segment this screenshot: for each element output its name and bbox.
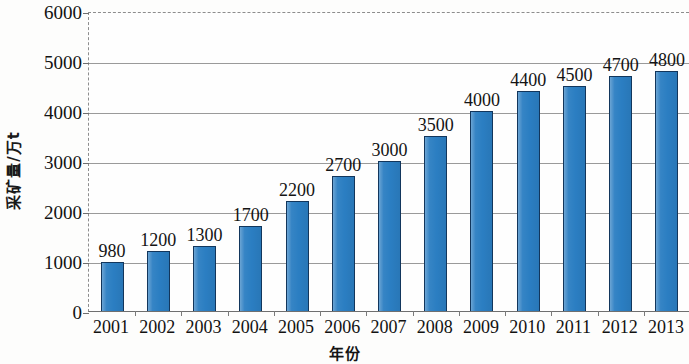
bar-value-label: 1200 [135, 231, 181, 249]
y-axis-tick-label: 5000 [24, 53, 82, 72]
y-axis-tick-labels: 0100020003000400050006000 [22, 0, 82, 364]
bar [378, 161, 401, 311]
bar-value-label: 3500 [413, 116, 459, 134]
bar-value-label: 2200 [274, 181, 320, 199]
x-axis-tick-label: 2006 [319, 318, 365, 336]
bar [563, 86, 586, 311]
x-axis-title: 年份 [0, 342, 689, 363]
bar-fill [425, 137, 446, 311]
y-axis-tick-mark [83, 113, 89, 114]
bar-value-label: 4000 [459, 91, 505, 109]
gridline [89, 113, 689, 114]
bar-fill [518, 92, 539, 311]
y-axis-tick-mark [83, 63, 89, 64]
x-axis-tick-mark [644, 311, 645, 316]
bar-value-label: 4500 [551, 66, 597, 84]
x-axis-tick-mark [598, 311, 599, 316]
y-axis-title: 采矿量/万t [0, 60, 24, 280]
y-axis-tick-mark [83, 163, 89, 164]
x-axis-tick-label: 2008 [412, 318, 458, 336]
x-axis-tick-label: 2012 [597, 318, 643, 336]
y-axis-tick-label: 4000 [24, 103, 82, 122]
x-axis-tick-mark [274, 311, 275, 316]
bar-fill [610, 77, 631, 311]
y-axis-tick-label: 0 [24, 303, 82, 322]
x-axis-tick-label: 2007 [365, 318, 411, 336]
bar [239, 226, 262, 311]
bar-value-label: 1300 [181, 226, 227, 244]
x-axis-tick-label: 2011 [550, 318, 596, 336]
x-axis-tick-mark [181, 311, 182, 316]
y-axis-tick-mark [83, 263, 89, 264]
y-axis-tick-mark [83, 213, 89, 214]
x-axis-tick-label: 2010 [504, 318, 550, 336]
bar-chart: 采矿量/万t 0100020003000400050006000 9801200… [0, 0, 689, 364]
x-axis-tick-label: 2001 [88, 318, 134, 336]
bar-fill [194, 247, 215, 311]
bar [655, 71, 678, 311]
bar [193, 246, 216, 311]
y-axis-tick-mark [83, 13, 89, 14]
x-axis-tick-mark [135, 311, 136, 316]
bar-fill [148, 252, 169, 311]
bar-value-label: 2700 [320, 156, 366, 174]
x-axis-tick-mark [366, 311, 367, 316]
x-axis-tick-label: 2005 [273, 318, 319, 336]
x-axis-tick-label: 2002 [134, 318, 180, 336]
bar [101, 262, 124, 311]
bar [147, 251, 170, 311]
bar-fill [564, 87, 585, 311]
bar-fill [379, 162, 400, 311]
x-axis-tick-label: 2009 [458, 318, 504, 336]
bar-value-label: 3000 [366, 141, 412, 159]
bar-value-label: 4700 [598, 56, 644, 74]
x-axis-tick-mark [551, 311, 552, 316]
bar-fill [287, 202, 308, 311]
bar [517, 91, 540, 311]
bar-fill [102, 263, 123, 311]
y-axis-tick-label: 1000 [24, 253, 82, 272]
x-axis-tick-mark [505, 311, 506, 316]
bar [424, 136, 447, 311]
bar-fill [471, 112, 492, 311]
y-axis-tick-label: 3000 [24, 153, 82, 172]
x-axis-tick-label: 2004 [227, 318, 273, 336]
bar-value-label: 4400 [505, 71, 551, 89]
plot-area: 9801200130017002200270030003500400044004… [88, 12, 689, 312]
x-axis-tick-mark [413, 311, 414, 316]
bar [470, 111, 493, 311]
x-axis-tick-label: 2003 [180, 318, 226, 336]
x-axis-tick-mark [459, 311, 460, 316]
bar [609, 76, 632, 311]
bar-value-label: 980 [89, 242, 135, 260]
bar [332, 176, 355, 311]
y-axis-tick-label: 6000 [24, 3, 82, 22]
bar-value-label: 1700 [228, 206, 274, 224]
y-axis-tick-mark [83, 313, 89, 314]
bar-value-label: 4800 [644, 51, 689, 69]
bar [286, 201, 309, 311]
x-axis-tick-label: 2013 [643, 318, 689, 336]
bar-fill [333, 177, 354, 311]
x-axis-tick-mark [320, 311, 321, 316]
bar-fill [656, 72, 677, 311]
bar-fill [240, 227, 261, 311]
y-axis-tick-label: 2000 [24, 203, 82, 222]
y-axis-title-text: 采矿量/万t [2, 131, 23, 210]
x-axis-tick-mark [228, 311, 229, 316]
